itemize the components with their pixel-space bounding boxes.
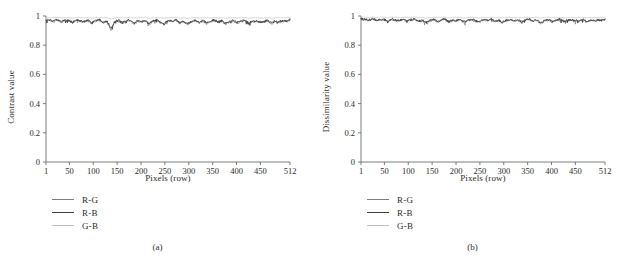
svg-text:1: 1 [351,11,355,21]
svg-text:0.4: 0.4 [29,99,40,109]
legend-swatch-rg [52,199,74,200]
chart-b-subcaption: (b) [315,242,630,252]
legend-item-rb: R-B [52,206,98,219]
chart-b-canvas: 00.20.40.60.8115010015020025030035040045… [315,0,630,264]
legend-item-gb: G-B [367,219,413,232]
svg-text:1: 1 [36,11,40,21]
chart-a-canvas: 00.20.40.60.8115010015020025030035040045… [0,0,315,264]
chart-a-legend: R-G R-B G-B [52,193,98,232]
svg-text:0.6: 0.6 [29,69,40,79]
legend-label-gb: G-B [82,221,98,231]
legend-label-gb: G-B [397,221,413,231]
panel-b: 00.20.40.60.8115010015020025030035040045… [315,0,630,264]
legend-label-rb: R-B [82,208,98,218]
chart-b-y-axis-label: Dissimilarity value [321,42,331,152]
legend-swatch-rb [367,212,389,213]
legend-item-rb: R-B [367,206,413,219]
legend-label-rb: R-B [397,208,413,218]
figure-two-panel-line-charts: 00.20.40.60.8115010015020025030035040045… [0,0,630,264]
svg-text:0.8: 0.8 [29,40,40,50]
legend-item-rg: R-G [367,193,413,206]
svg-text:0.6: 0.6 [344,69,355,79]
svg-text:0: 0 [351,157,355,167]
chart-a-x-axis-label: Pixels (row) [46,173,290,183]
svg-text:0.2: 0.2 [29,128,40,138]
legend-item-rg: R-G [52,193,98,206]
chart-b-x-axis-label: Pixels (row) [361,173,605,183]
svg-text:0.8: 0.8 [344,40,355,50]
legend-swatch-gb [52,225,74,226]
legend-label-rg: R-G [82,195,98,205]
svg-text:0.4: 0.4 [344,99,355,109]
legend-swatch-gb [367,225,389,226]
chart-a-subcaption: (a) [0,242,315,252]
legend-item-gb: G-B [52,219,98,232]
chart-a-plot-group: 00.20.40.60.8115010015020025030035040045… [29,11,296,176]
chart-b-legend: R-G R-B G-B [367,193,413,232]
chart-b-plot-group: 00.20.40.60.8115010015020025030035040045… [344,11,611,176]
legend-swatch-rb [52,212,74,213]
svg-text:0.2: 0.2 [344,128,355,138]
panel-a: 00.20.40.60.8115010015020025030035040045… [0,0,315,264]
legend-swatch-rg [367,199,389,200]
svg-text:0: 0 [36,157,40,167]
legend-label-rg: R-G [397,195,413,205]
chart-a-y-axis-label: Contrast value [6,42,16,152]
